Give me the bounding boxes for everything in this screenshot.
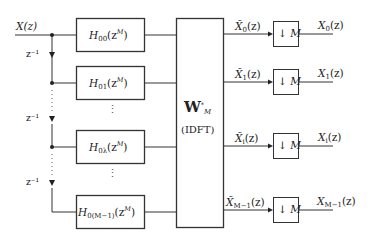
delay-label: z⁻¹ (26, 178, 39, 187)
filter-label: H00(zM) (89, 29, 128, 43)
downsampler-label: ↓ M (278, 140, 301, 151)
ellipsis: ⋮ (107, 168, 118, 179)
filter-label: H01(zM) (89, 77, 128, 91)
output-label: X0(z) (318, 20, 344, 33)
input-label: X(z) (16, 21, 37, 32)
intermediate-label: X̃0(z) (235, 21, 261, 34)
downsampler-label: ↓ M (278, 28, 301, 39)
transform-label: (IDFT) (181, 125, 214, 135)
output-label: XM−1(z) (317, 196, 356, 209)
delay-label: z⁻¹ (26, 50, 39, 59)
output-label: Xi(z) (318, 132, 341, 145)
output-label: X1(z) (318, 68, 344, 81)
delay-label: z⁻¹ (26, 114, 39, 123)
downsampler-label: ↓ M (278, 76, 301, 87)
transform-symbol: W*M (184, 100, 211, 116)
filter-label: H0(M−1)(zM) (78, 206, 135, 220)
intermediate-label: X̃M−1(z) (226, 197, 265, 210)
ellipsis: ⋮ (107, 104, 118, 115)
filter-label: H0λ(zM) (89, 141, 127, 155)
intermediate-label: X̃1(z) (235, 69, 261, 82)
intermediate-label: X̃i(z) (235, 133, 258, 146)
downsampler-label: ↓ M (278, 204, 301, 215)
